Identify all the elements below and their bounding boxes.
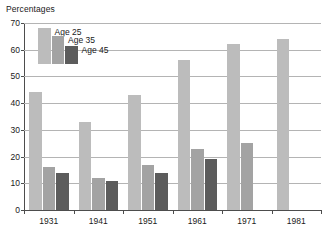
bar bbox=[155, 173, 168, 210]
y-tick-label: 0 bbox=[15, 205, 20, 215]
y-tick-label: 40 bbox=[11, 98, 20, 108]
x-tick-label: 1941 bbox=[89, 216, 108, 226]
x-tick-mark bbox=[173, 210, 174, 214]
x-axis-group: 193119411951196119711981 bbox=[24, 210, 321, 240]
legend-swatch bbox=[52, 36, 65, 64]
x-tick-mark bbox=[222, 210, 223, 214]
bar bbox=[142, 165, 155, 210]
bar bbox=[227, 44, 240, 210]
x-tick-label: 1951 bbox=[138, 216, 157, 226]
y-tick-label: 60 bbox=[11, 45, 20, 55]
bar bbox=[128, 95, 141, 210]
chart-container: Percentages 010203040506070 193119411951… bbox=[0, 0, 328, 240]
x-tick-label: 1971 bbox=[237, 216, 256, 226]
x-tick-mark bbox=[74, 210, 75, 214]
legend-label: Age 35 bbox=[68, 35, 95, 45]
x-tick-mark bbox=[272, 210, 273, 214]
bar bbox=[92, 178, 105, 210]
x-tick-mark bbox=[123, 210, 124, 214]
x-tick-mark bbox=[321, 210, 322, 214]
x-tick-label: 1931 bbox=[39, 216, 58, 226]
bar bbox=[79, 122, 92, 210]
x-tick-mark bbox=[24, 210, 25, 214]
legend-swatch bbox=[65, 46, 78, 64]
x-tick-label: 1981 bbox=[287, 216, 306, 226]
bar bbox=[29, 92, 42, 210]
bar bbox=[191, 149, 204, 210]
bar bbox=[56, 173, 69, 210]
bar bbox=[178, 60, 191, 210]
chart-legend: Age 25Age 35Age 45 bbox=[38, 28, 168, 64]
bar bbox=[241, 143, 254, 210]
chart-title: Percentages bbox=[6, 4, 55, 14]
legend-label: Age 45 bbox=[82, 45, 109, 55]
legend-swatch bbox=[38, 28, 51, 64]
y-tick-label: 20 bbox=[11, 152, 20, 162]
y-tick-label: 30 bbox=[11, 125, 20, 135]
y-tick-label: 70 bbox=[11, 18, 20, 28]
y-tick-label: 50 bbox=[11, 71, 20, 81]
bar bbox=[205, 159, 218, 210]
bar bbox=[43, 167, 56, 210]
x-tick-label: 1961 bbox=[188, 216, 207, 226]
bar bbox=[106, 181, 119, 210]
y-tick-label: 10 bbox=[11, 178, 20, 188]
bar bbox=[277, 39, 290, 210]
